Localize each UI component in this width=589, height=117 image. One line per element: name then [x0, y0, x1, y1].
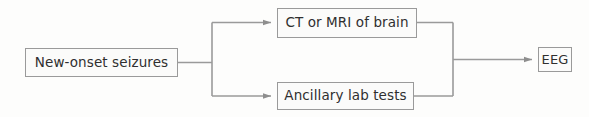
node-eeg[interactable]: EEG: [538, 47, 572, 72]
flowchart-diagram: New-onset seizures CT or MRI of brain An…: [0, 0, 589, 117]
node-new-onset-seizures[interactable]: New-onset seizures: [25, 48, 178, 77]
node-ct-or-mri-of-brain[interactable]: CT or MRI of brain: [277, 8, 417, 38]
node-label-eeg: EEG: [541, 53, 570, 66]
node-label-labs: Ancillary lab tests: [283, 89, 407, 103]
node-label-imaging: CT or MRI of brain: [284, 16, 409, 30]
node-ancillary-lab-tests[interactable]: Ancillary lab tests: [277, 82, 414, 110]
node-label-seizures: New-onset seizures: [34, 56, 169, 70]
